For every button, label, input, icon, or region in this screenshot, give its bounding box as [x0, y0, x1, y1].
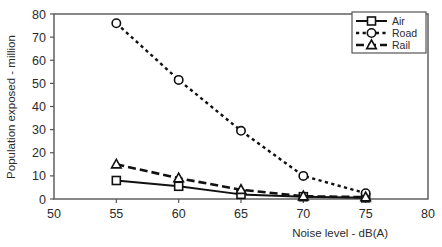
y-tick-label: 40	[32, 100, 46, 114]
y-tick-label: 0	[39, 193, 46, 207]
data-point-marker	[174, 76, 182, 84]
x-tick-label: 80	[421, 207, 435, 221]
data-point-marker	[237, 127, 245, 135]
x-tick-label: 60	[172, 207, 186, 221]
y-axis-tick-labels: 01020304050607080	[32, 8, 46, 207]
y-axis-title: Population exposed - million	[5, 35, 17, 179]
data-point-marker	[112, 19, 120, 27]
data-point-marker	[112, 177, 120, 185]
legend-marker	[368, 17, 376, 25]
y-tick-label: 30	[32, 123, 46, 137]
x-tick-label: 75	[359, 207, 373, 221]
x-tick-label: 65	[234, 207, 248, 221]
y-tick-label: 60	[32, 54, 46, 68]
line-chart: 01020304050607080 50556065707580 Noise l…	[0, 0, 442, 247]
x-axis-title: Noise level - dB(A)	[292, 227, 388, 239]
legend-label: Rail	[392, 39, 410, 51]
chart-container: 01020304050607080 50556065707580 Noise l…	[0, 0, 442, 247]
y-tick-label: 20	[32, 146, 46, 160]
data-point-marker	[299, 172, 307, 180]
x-tick-label: 50	[47, 207, 61, 221]
x-tick-label: 55	[109, 207, 123, 221]
legend-label: Road	[392, 27, 417, 39]
y-tick-label: 80	[32, 8, 46, 22]
data-point-marker	[175, 182, 183, 190]
y-tick-label: 10	[32, 169, 46, 183]
legend-label: Air	[392, 15, 405, 27]
y-tick-label: 50	[32, 77, 46, 91]
y-tick-label: 70	[32, 31, 46, 45]
x-tick-label: 70	[296, 207, 310, 221]
chart-legend: AirRoadRail	[352, 12, 426, 53]
legend-marker	[367, 29, 375, 37]
